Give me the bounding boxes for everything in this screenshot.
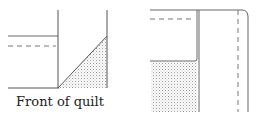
front-of-quilt-figure (8, 10, 107, 88)
inner-fold-edge (150, 10, 197, 61)
shaded-rectangle (151, 62, 197, 112)
back-of-quilt-figure (150, 10, 248, 112)
front-of-quilt-caption: Front of quilt (0, 94, 120, 109)
